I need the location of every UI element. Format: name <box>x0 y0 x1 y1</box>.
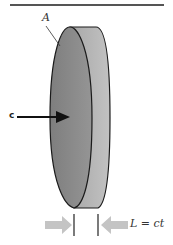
area-leader-line <box>46 26 60 46</box>
right-gray-arrow <box>101 216 128 234</box>
velocity-label: c <box>9 110 14 120</box>
length-label: L = ct <box>130 217 164 230</box>
left-gray-arrow <box>45 216 72 234</box>
area-label: A <box>42 11 50 24</box>
disk-diagram <box>0 0 173 245</box>
